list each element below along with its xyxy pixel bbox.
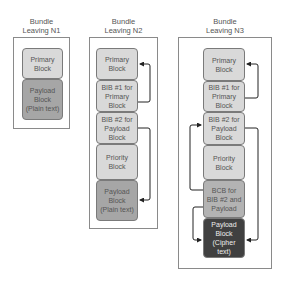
reference-arrows bbox=[0, 0, 287, 283]
n3-bcb-to-bib2-arrow bbox=[190, 125, 203, 190]
n3-bib2-to-payload-arrow bbox=[245, 128, 258, 240]
n3-bib1-to-primary-arrow bbox=[245, 64, 258, 98]
n2-bib1-to-primary-arrow bbox=[138, 64, 150, 102]
n3-bcb-to-payload-arrow bbox=[193, 207, 203, 240]
n2-bib2-to-payload-arrow bbox=[138, 128, 150, 200]
